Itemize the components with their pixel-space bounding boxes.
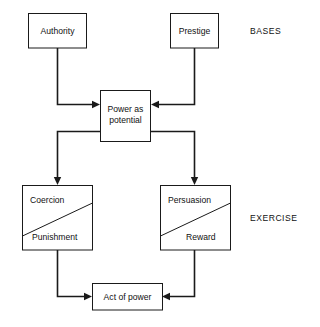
arrowhead-icon [84, 293, 92, 300]
node-punishment-label: Punishment [32, 232, 78, 242]
node-power-label-line2: potential [109, 115, 142, 125]
node-act-of-power-label: Act of power [104, 292, 152, 302]
edge-power-to-persuasion [151, 132, 198, 186]
node-act-of-power[interactable]: Act of power [93, 284, 163, 311]
section-label-bases: BASES [250, 26, 281, 36]
edge-authority-to-power [58, 48, 101, 108]
node-persuasion-label: Persuasion [168, 195, 211, 205]
edge-power-to-coercion [54, 132, 100, 186]
node-reward-label: Reward [186, 232, 216, 242]
node-prestige[interactable]: Prestige [171, 14, 219, 49]
node-prestige-label: Prestige [179, 26, 211, 36]
flowchart-canvas: Authority Prestige Power as potential Co… [0, 0, 320, 327]
power-flow-diagram: Authority Prestige Power as potential Co… [0, 0, 320, 327]
arrowhead-icon [151, 101, 159, 108]
node-persuasion-reward[interactable]: Persuasion Reward [161, 186, 231, 251]
arrowhead-icon [191, 177, 198, 185]
node-authority[interactable]: Authority [29, 14, 87, 49]
node-authority-label: Authority [41, 26, 76, 36]
node-coercion-label: Coercion [30, 195, 65, 205]
node-coercion-punishment[interactable]: Coercion Punishment [23, 186, 93, 251]
edge-persuasion-to-act [162, 250, 195, 300]
node-power-as-potential[interactable]: Power as potential [101, 91, 151, 142]
arrowhead-icon [54, 177, 61, 185]
edge-coercion-to-act [58, 250, 93, 300]
arrowhead-icon [162, 293, 170, 300]
section-label-exercise: EXERCISE [250, 213, 297, 223]
node-power-label-line1: Power as [108, 104, 144, 114]
arrowhead-icon [92, 101, 100, 108]
edge-prestige-to-power [151, 48, 195, 108]
